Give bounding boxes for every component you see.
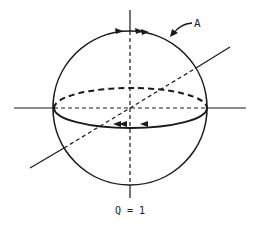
curved-arrow-icon (174, 23, 192, 33)
sphere-diagram: A Q = 1 (0, 0, 255, 227)
label-a-group: A (170, 17, 201, 37)
label-a: A (194, 17, 201, 30)
caption: Q = 1 (115, 205, 145, 216)
diagonal-axis (30, 47, 230, 168)
